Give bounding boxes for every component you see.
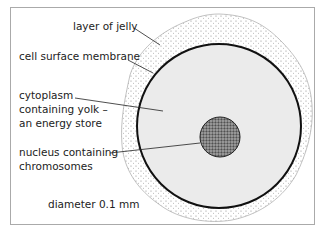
nucleus bbox=[200, 117, 240, 157]
label-jelly: layer of jelly bbox=[73, 20, 138, 33]
label-nucleus-1: nucleus containing bbox=[19, 146, 118, 159]
label-membrane: cell surface membrane bbox=[19, 50, 140, 63]
label-nucleus-2: chromosomes bbox=[19, 160, 93, 173]
jelly-pointer bbox=[134, 28, 160, 45]
label-cytoplasm-3: an energy store bbox=[19, 117, 102, 130]
label-cytoplasm-1: cytoplasm bbox=[19, 89, 73, 102]
label-cytoplasm-2: containing yolk – bbox=[19, 103, 108, 116]
label-diameter: diameter 0.1 mm bbox=[48, 198, 139, 211]
